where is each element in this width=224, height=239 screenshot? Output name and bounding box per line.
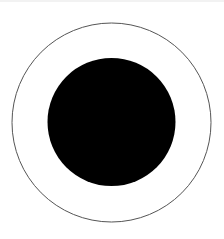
canvas bbox=[0, 0, 224, 239]
radio-selected-icon bbox=[0, 0, 224, 239]
inner-dot bbox=[48, 58, 176, 186]
